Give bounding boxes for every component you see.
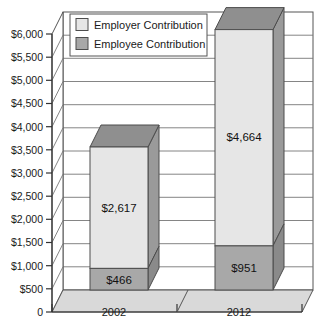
y-tick-label: $500 [20, 283, 44, 295]
legend: Employer Contribution Employee Contribut… [70, 14, 207, 56]
bar-2002-employee-value-label: $466 [106, 274, 132, 286]
legend-label-employer: Employer Contribution [94, 19, 203, 31]
y-tick-label: 0 [37, 306, 43, 318]
stacked-column-3d-chart: $6,000 $5,500 $5,000 $4,500 $4,000 $3,50… [0, 0, 326, 319]
y-tick-label: $4,000 [11, 121, 43, 133]
y-tick-label: $1,500 [11, 236, 43, 248]
y-tick-label: $5,500 [11, 51, 43, 63]
x-axis-label-2012: 2012 [227, 306, 251, 318]
bar-2012-employer-value-label: $4,664 [226, 131, 262, 143]
y-tick-label: $6,000 [11, 28, 43, 40]
y-tick-label: $2,000 [11, 213, 43, 225]
y-tick-label: $4,500 [11, 97, 43, 109]
y-axis-tick-labels: $6,000 $5,500 $5,000 $4,500 $4,000 $3,50… [11, 28, 43, 318]
legend-swatch-employee [76, 38, 88, 50]
bar-group-2012[interactable]: $4,664 $951 [215, 8, 284, 290]
bar-group-2002[interactable]: $2,617 $466 [90, 125, 159, 290]
bar-2002-employer-value-label: $2,617 [101, 202, 136, 214]
y-tick-label: $3,500 [11, 144, 43, 156]
bar-2012-top-face [215, 8, 284, 30]
y-tick-label: $2,500 [11, 190, 43, 202]
y-axis-ticks [46, 34, 52, 312]
bar-2002-employer-side [148, 125, 159, 268]
bar-2012-employer-side [273, 8, 284, 246]
bar-2002-top-face [90, 125, 159, 147]
y-tick-label: $3,000 [11, 167, 43, 179]
legend-swatch-employer [76, 19, 88, 31]
x-axis-label-2002: 2002 [102, 306, 126, 318]
y-tick-label: $5,000 [11, 74, 43, 86]
chart-container: $6,000 $5,500 $5,000 $4,500 $4,000 $3,50… [0, 0, 326, 319]
legend-label-employee: Employee Contribution [94, 38, 205, 50]
legend-item-employee[interactable]: Employee Contribution [76, 38, 205, 50]
y-tick-label: $1,000 [11, 260, 43, 272]
bar-2012-employee-value-label: $951 [231, 262, 257, 274]
legend-item-employer[interactable]: Employer Contribution [76, 19, 203, 31]
